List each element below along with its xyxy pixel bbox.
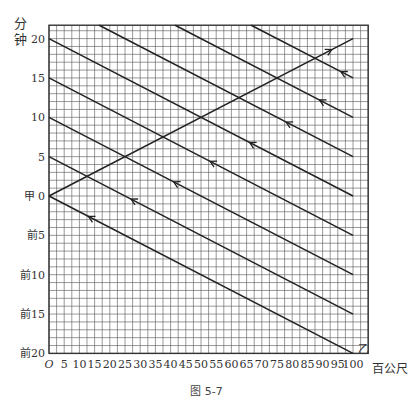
x-tick-label: 90 [316,358,330,371]
x-tick-label: 5 [61,358,68,371]
x-tick-label: 25 [118,358,132,371]
x-tick-label: 50 [194,358,208,371]
series-label-yi: 乙 [358,343,369,356]
x-tick-label: 40 [164,358,178,371]
x-axis-label: 百公尺 [372,362,408,376]
y-tick-label: 15 [31,72,45,85]
y-tick-label: 前15 [20,307,45,321]
x-tick-label: 60 [224,358,238,371]
x-tick-label: 20 [103,358,117,371]
x-tick-label: 35 [148,358,162,371]
y-tick-label: 前20 [20,346,45,360]
x-tick-label: O [44,358,53,371]
figure-caption: 图 5-7 [0,382,413,398]
x-tick-label: 30 [133,358,147,371]
x-tick-label: 65 [240,358,254,371]
x-tick-label: 15 [88,358,102,371]
x-tick-label: 75 [270,358,284,371]
y-axis-label-2: 钟 [14,32,27,47]
x-tick-label: 80 [285,358,299,371]
x-tick-label: 45 [179,358,193,371]
x-tick-label: 100 [343,358,364,371]
y-tick-label: 20 [31,33,45,46]
x-tick-label: 55 [209,358,223,371]
y-tick-label: 甲 0 [24,190,46,203]
tick-labels: O510152025303540455055606570758085909510… [20,33,369,372]
y-tick-label: 10 [31,111,45,124]
y-tick-label: 5 [38,151,45,164]
y-tick-label: 前10 [20,268,45,282]
y-axis-label: 分 [14,16,27,31]
y-tick-label: 前5 [27,228,45,242]
series-line [175,25,353,117]
x-tick-label: 70 [255,358,269,371]
chart: O510152025303540455055606570758085909510… [0,0,413,401]
x-tick-label: 10 [72,358,86,371]
x-tick-label: 85 [300,358,314,371]
grid [49,25,368,353]
